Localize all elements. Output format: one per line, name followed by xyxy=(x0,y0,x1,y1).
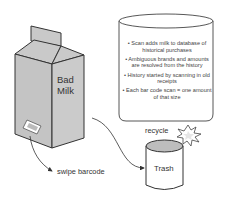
database-note: • History started by scanning in old rec… xyxy=(121,72,213,85)
discard-arrow xyxy=(92,118,144,168)
database-note: • Scan adds milk to database of historic… xyxy=(121,40,213,53)
recycle-label: recycle xyxy=(145,126,168,135)
trash-label: Trash xyxy=(154,164,174,173)
carton-label-line2: Milk xyxy=(57,85,74,96)
swipe-barcode-label: swipe barcode xyxy=(57,167,105,176)
database-note: • Each bar code scan = one amount of tha… xyxy=(121,87,213,100)
database-note: • Ambiguous brands and amounts are resol… xyxy=(121,56,213,69)
carton-label: Bad Milk xyxy=(57,74,74,96)
carton-label-line1: Bad xyxy=(57,74,74,85)
database-notes: • Scan adds milk to database of historic… xyxy=(121,40,213,103)
